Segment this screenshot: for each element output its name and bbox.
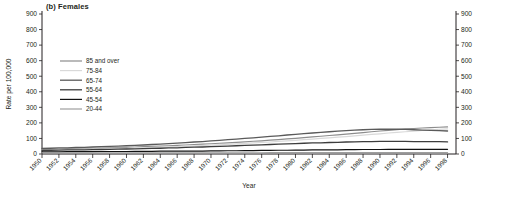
legend-label: 75-84 [86, 67, 103, 74]
x-tick-label: 1984 [315, 156, 330, 171]
y-tick-label-right: 600 [461, 57, 472, 64]
y-tick-label: 200 [26, 119, 37, 126]
legend-label: 65-74 [86, 77, 103, 84]
y-tick-label: 300 [26, 104, 37, 111]
x-tick-label: 1992 [383, 156, 398, 171]
y-tick-label-right: 200 [461, 119, 472, 126]
y-tick-label-right: 500 [461, 73, 472, 80]
legend-label: 20-44 [86, 105, 103, 112]
x-tick-label: 1962 [129, 156, 144, 171]
x-tick-label: 1998 [433, 156, 448, 171]
y-tick-label: 800 [26, 26, 37, 33]
y-axis-left: 0100200300400500600700800900 [26, 10, 42, 157]
x-tick-label: 1996 [416, 156, 431, 171]
legend-label: 45-54 [86, 96, 103, 103]
y-tick-label-right: 900 [461, 10, 472, 17]
x-tick-label: 1968 [180, 156, 195, 171]
y-tick-label-right: 0 [461, 150, 465, 157]
x-tick-label: 1982 [298, 156, 313, 171]
x-tick-label: 1970 [197, 156, 212, 171]
x-tick-label: 1964 [146, 156, 161, 171]
y-tick-label-right: 800 [461, 26, 472, 33]
x-tick-label: 1986 [332, 156, 347, 171]
x-tick-label: 1952 [45, 156, 60, 171]
x-tick-label: 1958 [95, 156, 110, 171]
x-tick-label: 1956 [78, 156, 93, 171]
x-tick-label: 1974 [230, 156, 245, 171]
series-group [42, 127, 448, 153]
y-axis-label: Rate per 100,000 [5, 58, 13, 109]
chart-legend: 85 and over75-8465-7455-6445-5420-44 [60, 57, 119, 112]
y-tick-label: 0 [33, 150, 37, 157]
x-tick-label: 1954 [61, 156, 76, 171]
y-tick-label-right: 700 [461, 41, 472, 48]
chart-container: (b) Females 0100200300400500600700800900… [0, 0, 512, 197]
y-tick-label: 700 [26, 41, 37, 48]
x-axis: 1950195219541956195819601962196419661968… [28, 154, 456, 172]
y-tick-label: 500 [26, 73, 37, 80]
x-tick-label: 1994 [399, 156, 414, 171]
y-tick-label: 100 [26, 135, 37, 142]
y-tick-label: 600 [26, 57, 37, 64]
legend-label: 55-64 [86, 86, 103, 93]
x-tick-label: 1960 [112, 156, 127, 171]
y-tick-label-right: 400 [461, 88, 472, 95]
y-tick-label-right: 100 [461, 135, 472, 142]
x-tick-label: 1972 [214, 156, 229, 171]
x-tick-label: 1978 [264, 156, 279, 171]
x-tick-label: 1966 [163, 156, 178, 171]
y-axis-right: 0100200300400500600700800900 [456, 10, 472, 157]
y-tick-label: 900 [26, 10, 37, 17]
x-axis-label: Year [242, 182, 256, 189]
x-tick-label: 1976 [247, 156, 262, 171]
x-tick-label: 1990 [366, 156, 381, 171]
x-tick-label: 1980 [281, 156, 296, 171]
y-tick-label-right: 300 [461, 104, 472, 111]
x-tick-label: 1950 [28, 156, 43, 171]
line-chart: 0100200300400500600700800900 01002003004… [0, 0, 512, 197]
y-tick-label: 400 [26, 88, 37, 95]
x-tick-label: 1988 [349, 156, 364, 171]
legend-label: 85 and over [86, 57, 119, 64]
